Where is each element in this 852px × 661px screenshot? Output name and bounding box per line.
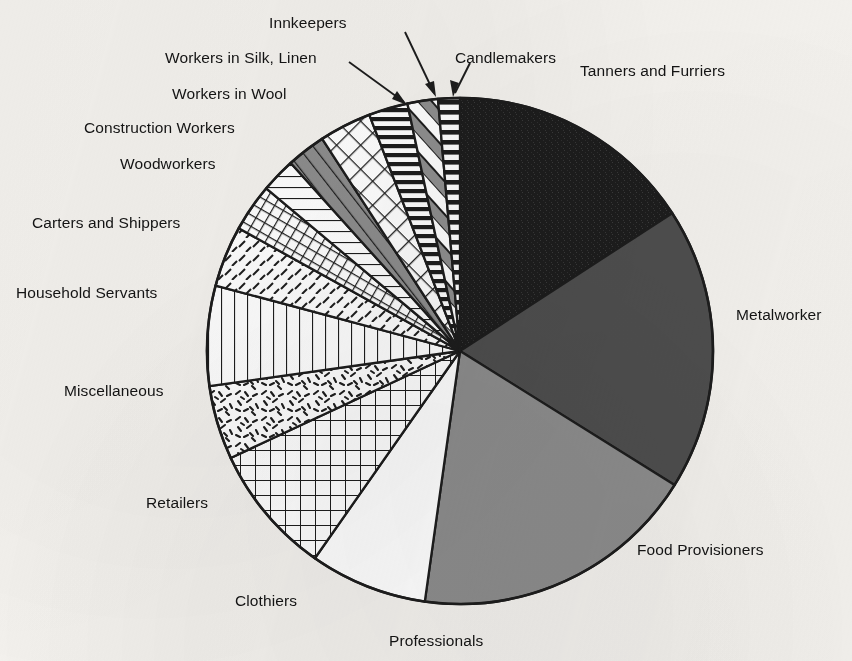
label-carters-and-shippers: Carters and Shippers <box>32 214 180 231</box>
pie-chart-figure: Innkeepers Workers in Silk, Linen Candle… <box>0 0 852 661</box>
callout-arrows <box>349 32 470 105</box>
label-construction-workers: Construction Workers <box>84 119 235 136</box>
pie-chart-canvas <box>0 0 852 661</box>
label-woodworkers: Woodworkers <box>120 155 216 172</box>
label-candlemakers: Candlemakers <box>455 49 556 66</box>
label-tanners-and-furriers: Tanners and Furriers <box>580 62 725 79</box>
label-clothiers: Clothiers <box>235 592 297 609</box>
label-retailers: Retailers <box>146 494 208 511</box>
label-innkeepers: Innkeepers <box>269 14 347 31</box>
label-food-provisioners: Food Provisioners <box>637 541 764 558</box>
pie-slices <box>207 98 713 604</box>
label-miscellaneous: Miscellaneous <box>64 382 164 399</box>
arrow-candlemakers <box>455 63 470 93</box>
label-workers-in-silk-linen: Workers in Silk, Linen <box>165 49 317 66</box>
label-metalworkers: Metalworker <box>736 306 822 323</box>
label-workers-in-wool: Workers in Wool <box>172 85 287 102</box>
label-household-servants: Household Servants <box>16 284 157 301</box>
label-professionals: Professionals <box>389 632 483 649</box>
